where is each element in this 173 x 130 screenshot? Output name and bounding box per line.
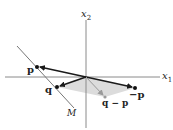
label-m: M bbox=[66, 108, 77, 118]
vector-p bbox=[40, 67, 86, 77]
label-q: q bbox=[45, 84, 52, 95]
diagram-canvas: x2 x1 p q −p q − p M bbox=[0, 0, 173, 130]
point-p bbox=[35, 65, 39, 69]
label-q-minus-p: q − p bbox=[102, 98, 128, 108]
label-p: p bbox=[27, 64, 34, 75]
point-q bbox=[55, 85, 59, 89]
x2-axis-label: x2 bbox=[81, 8, 91, 22]
label-neg-p: −p bbox=[129, 89, 144, 100]
x1-axis-label: x1 bbox=[162, 70, 172, 84]
vector-diagram: x2 x1 p q −p q − p M bbox=[0, 0, 173, 130]
